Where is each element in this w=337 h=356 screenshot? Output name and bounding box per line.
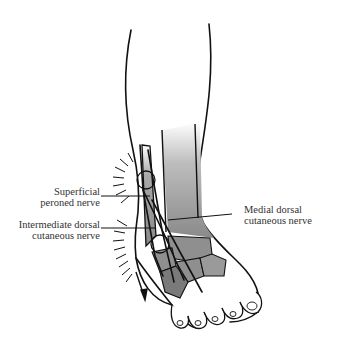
ankle-nerve-diagram	[0, 0, 337, 356]
label-medial-line2: cutaneous nerve	[244, 215, 312, 226]
tibia-bone	[162, 122, 214, 238]
label-intermediate-line1: Intermediate dorsal	[0, 219, 100, 230]
label-medial-dorsal-cutaneous-nerve: Medial dorsal cutaneous nerve	[244, 204, 312, 226]
label-superficial-peroneal-nerve: Superficial peroned nerve	[20, 186, 100, 208]
label-superficial-line1: Superficial	[20, 186, 100, 197]
toes	[171, 292, 261, 329]
label-intermediate-line2: cutaneous nerve	[0, 230, 100, 241]
label-medial-line1: Medial dorsal	[244, 204, 312, 215]
label-superficial-line2: peroned nerve	[20, 197, 100, 208]
label-intermediate-dorsal-cutaneous-nerve: Intermediate dorsal cutaneous nerve	[0, 219, 100, 241]
pain-rays-inferior	[113, 220, 132, 282]
